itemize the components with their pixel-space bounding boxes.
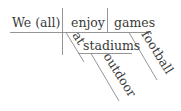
football-word: football bbox=[138, 28, 176, 77]
outdoor-word: outdoor bbox=[100, 50, 139, 100]
verb-word: enjoy bbox=[71, 15, 106, 30]
object-word: games bbox=[114, 15, 155, 30]
subject-word: We (all) bbox=[12, 15, 60, 30]
sentence-diagram: We (all) enjoy games stadiums at outdoor… bbox=[0, 0, 181, 111]
